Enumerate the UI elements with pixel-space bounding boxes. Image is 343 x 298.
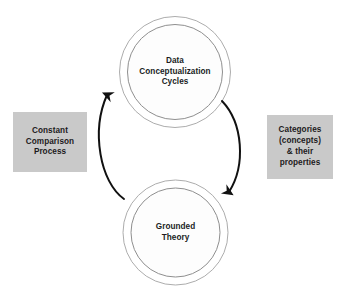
caption-categories-concepts-properties: Categories (concepts) & their properties (267, 115, 333, 179)
caption-left-label: Constant Comparison Process (26, 126, 74, 159)
node-grounded-theory: Grounded Theory (122, 179, 229, 286)
node-bottom-label: Grounded Theory (153, 222, 199, 244)
caption-constant-comparison-process: Constant Comparison Process (13, 112, 87, 172)
node-data-conceptualization-cycles: Data Conceptualization Cycles (119, 16, 231, 128)
grounded-theory-cycle-diagram: Data Conceptualization Cycles Grounded T… (0, 0, 343, 298)
node-top-label: Data Conceptualization Cycles (136, 56, 213, 88)
caption-right-label: Categories (concepts) & their properties (279, 125, 322, 169)
